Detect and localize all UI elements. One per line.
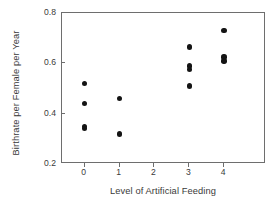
- x-axis-ticks: 01234: [0, 0, 279, 207]
- x-tick-label: 1: [109, 167, 129, 177]
- x-tick-label: 4: [213, 167, 233, 177]
- x-tick-label: 2: [143, 167, 163, 177]
- scatter-plot-figure: Birthrate per Female per Year 0.20.40.60…: [0, 0, 279, 207]
- x-tick-label: 3: [178, 167, 198, 177]
- x-axis-label: Level of Artificial Feeding: [61, 186, 265, 196]
- x-tick-label: 0: [74, 167, 94, 177]
